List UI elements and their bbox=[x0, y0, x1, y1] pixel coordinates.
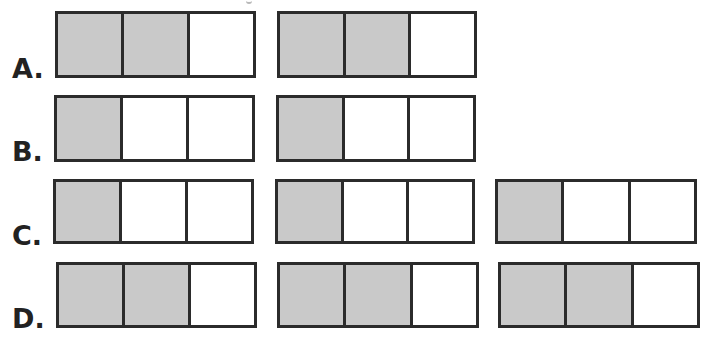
fraction-bar-a-1 bbox=[55, 11, 256, 78]
cell-shaded bbox=[56, 182, 119, 241]
fraction-bar-c-1 bbox=[53, 179, 254, 244]
option-label-a: A. bbox=[12, 55, 44, 82]
cell-shaded bbox=[564, 265, 630, 325]
cell-shaded bbox=[343, 14, 409, 75]
cell-unshaded bbox=[410, 265, 476, 325]
cell-unshaded bbox=[188, 265, 254, 325]
fraction-bar-b-1 bbox=[54, 95, 255, 162]
option-label-b: B. bbox=[12, 138, 43, 165]
cell-unshaded bbox=[119, 182, 185, 241]
cell-unshaded bbox=[407, 98, 473, 159]
option-label-d: D. bbox=[12, 305, 45, 332]
cell-unshaded bbox=[628, 182, 694, 241]
cell-shaded bbox=[498, 182, 561, 241]
fraction-bar-b-2 bbox=[276, 95, 476, 162]
cell-shaded bbox=[280, 14, 343, 75]
cell-unshaded bbox=[341, 182, 407, 241]
cell-unshaded bbox=[406, 182, 472, 241]
cell-shaded bbox=[279, 98, 342, 159]
cell-shaded bbox=[343, 265, 409, 325]
cell-shaded bbox=[501, 265, 564, 325]
option-c[interactable]: C. bbox=[0, 170, 707, 255]
fraction-bar-c-3 bbox=[495, 179, 697, 244]
cell-shaded bbox=[280, 265, 343, 325]
option-b[interactable]: B. bbox=[0, 85, 707, 170]
fraction-bar-d-1 bbox=[56, 262, 257, 328]
fraction-bar-d-2 bbox=[277, 262, 479, 328]
cell-unshaded bbox=[408, 14, 474, 75]
fraction-bar-a-2 bbox=[277, 11, 477, 78]
cell-shaded bbox=[58, 14, 121, 75]
cell-unshaded bbox=[120, 98, 186, 159]
cell-shaded bbox=[57, 98, 120, 159]
cell-unshaded bbox=[186, 98, 252, 159]
fraction-bar-d-3 bbox=[498, 262, 700, 328]
option-label-c: C. bbox=[12, 222, 42, 249]
cell-shaded bbox=[278, 182, 341, 241]
cell-unshaded bbox=[187, 14, 253, 75]
cell-unshaded bbox=[342, 98, 408, 159]
option-d[interactable]: D. bbox=[0, 255, 707, 343]
fraction-bar-c-2 bbox=[275, 179, 475, 244]
option-a[interactable]: A. bbox=[0, 0, 707, 85]
cell-shaded bbox=[122, 265, 188, 325]
cell-unshaded bbox=[561, 182, 627, 241]
cell-shaded bbox=[121, 14, 187, 75]
cell-unshaded bbox=[631, 265, 697, 325]
cell-unshaded bbox=[185, 182, 251, 241]
cell-shaded bbox=[59, 265, 122, 325]
